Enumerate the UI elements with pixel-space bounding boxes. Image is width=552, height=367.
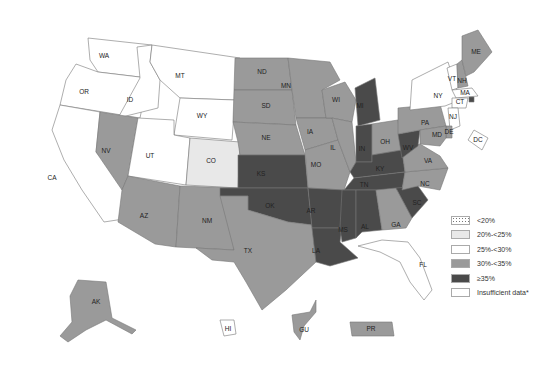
state-label-sd: SD	[261, 102, 270, 109]
state-ri	[469, 97, 474, 102]
state-label-nj: NJ	[449, 113, 457, 120]
state-label-mn: MN	[281, 82, 291, 89]
state-label-pr: PR	[366, 325, 375, 332]
state-label-ma: MA	[460, 89, 470, 96]
state-label-ut: UT	[146, 152, 155, 159]
legend-item-ge35: ≥35%	[451, 271, 551, 286]
state-label-oh: OH	[380, 138, 390, 145]
legend-swatch	[451, 259, 470, 268]
state-label-al: AL	[361, 223, 369, 230]
state-label-ok: OK	[265, 202, 275, 209]
us-choropleth-map: WAORCAIDNVMTWYUTCOAZNMNDSDNEKSOKTXMNIAMO…	[0, 0, 552, 367]
legend-label: Insufficient data*	[477, 289, 529, 296]
state-mt	[150, 45, 240, 100]
state-label-wa: WA	[99, 52, 110, 59]
legend: <20% 20%-<25% 25%-<30% 30%-<35% ≥35% Ins…	[451, 213, 551, 300]
state-label-ca: CA	[47, 174, 57, 181]
state-label-id: ID	[127, 96, 134, 103]
legend-item-20-25: 20%-<25%	[451, 228, 551, 243]
state-fl	[358, 240, 432, 300]
state-label-hi: HI	[225, 325, 232, 332]
state-label-mi: MI	[356, 102, 363, 109]
state-label-va: VA	[424, 157, 433, 164]
state-label-ct: CT	[456, 98, 465, 105]
legend-item-30-35: 30%-<35%	[451, 257, 551, 272]
state-ak	[60, 280, 136, 342]
legend-swatch	[451, 274, 470, 283]
legend-item-lt20: <20%	[451, 213, 551, 228]
state-label-tx: TX	[244, 247, 253, 254]
state-label-ms: MS	[338, 226, 348, 233]
state-gu	[292, 300, 316, 340]
state-label-me: ME	[471, 48, 481, 55]
state-label-az: AZ	[140, 212, 148, 219]
legend-label: <20%	[477, 217, 495, 224]
state-label-nd: ND	[257, 68, 267, 75]
state-label-wy: WY	[197, 112, 208, 119]
legend-label: ≥35%	[477, 275, 495, 282]
state-label-ny: NY	[433, 92, 443, 99]
state-wy	[174, 98, 235, 140]
state-ks	[238, 155, 308, 188]
legend-label: 30%-<35%	[477, 260, 511, 267]
state-label-in: IN	[359, 145, 366, 152]
state-label-nh: NH	[457, 77, 467, 84]
state-label-or: OR	[79, 88, 89, 95]
state-label-nm: NM	[202, 217, 212, 224]
state-label-ga: GA	[391, 221, 401, 228]
legend-swatch	[451, 216, 470, 225]
state-label-ak: AK	[92, 298, 101, 305]
state-label-wi: WI	[332, 96, 340, 103]
state-label-co: CO	[206, 157, 216, 164]
state-label-wv: WV	[403, 144, 414, 151]
state-label-pa: PA	[421, 119, 430, 126]
state-label-tn: TN	[360, 181, 369, 188]
legend-swatch	[451, 230, 470, 239]
state-label-sc: SC	[412, 199, 421, 206]
legend-label: 25%-<30%	[477, 246, 511, 253]
state-label-ky: KY	[376, 165, 385, 172]
state-label-la: LA	[312, 247, 321, 254]
state-label-nc: NC	[420, 180, 430, 187]
state-label-vt: VT	[448, 75, 456, 82]
state-label-mt: MT	[175, 72, 184, 79]
state-label-mo: MO	[311, 161, 321, 168]
legend-item-insufficient: Insufficient data*	[451, 286, 551, 301]
state-ms	[340, 190, 356, 242]
state-label-nv: NV	[101, 147, 111, 154]
legend-item-25-30: 25%-<30%	[451, 242, 551, 257]
state-label-de: DE	[444, 128, 454, 135]
legend-swatch	[451, 288, 470, 297]
state-label-il: IL	[330, 144, 336, 151]
legend-label: 20%-<25%	[477, 231, 511, 238]
state-label-dc: DC	[473, 136, 483, 143]
state-label-fl: FL	[419, 261, 427, 268]
state-in	[356, 124, 372, 162]
state-label-ar: AR	[306, 207, 315, 214]
state-label-ks: KS	[257, 170, 266, 177]
state-label-ne: NE	[261, 134, 271, 141]
state-label-gu: GU	[299, 326, 309, 333]
legend-swatch	[451, 245, 470, 254]
state-az	[118, 176, 180, 247]
state-label-md: MD	[432, 131, 442, 138]
state-label-ia: IA	[307, 128, 314, 135]
